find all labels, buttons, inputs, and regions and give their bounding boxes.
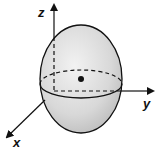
- z-axis-label: z: [37, 5, 45, 20]
- y-axis-label: y: [142, 96, 151, 111]
- x-axis: [7, 100, 45, 137]
- center-point: [78, 76, 84, 82]
- x-axis-label: x: [12, 135, 21, 149]
- ellipsoid-diagram: z y x: [0, 0, 158, 149]
